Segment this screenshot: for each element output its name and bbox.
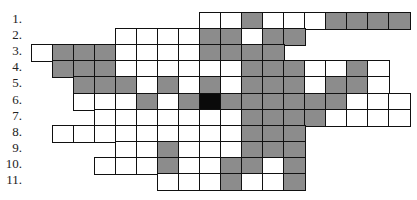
grid-cell[interactable] <box>367 76 390 94</box>
shaded-cell[interactable] <box>94 44 117 62</box>
grid-cell[interactable] <box>178 141 201 159</box>
shaded-cell[interactable] <box>283 157 306 175</box>
grid-cell[interactable] <box>220 76 243 94</box>
shaded-cell[interactable] <box>283 125 306 143</box>
shaded-cell[interactable] <box>157 157 180 175</box>
shaded-cell[interactable] <box>304 109 327 127</box>
shaded-cell[interactable] <box>220 28 243 46</box>
grid-cell[interactable] <box>367 109 390 127</box>
grid-cell[interactable] <box>304 76 327 94</box>
shaded-cell[interactable] <box>262 93 285 111</box>
grid-cell[interactable] <box>136 157 159 175</box>
grid-cell[interactable] <box>136 76 159 94</box>
grid-cell[interactable] <box>157 109 180 127</box>
shaded-cell[interactable] <box>262 28 285 46</box>
shaded-cell[interactable] <box>220 173 243 191</box>
shaded-cell[interactable] <box>220 157 243 175</box>
grid-cell[interactable] <box>178 44 201 62</box>
shaded-cell[interactable] <box>115 76 138 94</box>
grid-cell[interactable] <box>346 93 369 111</box>
grid-cell[interactable] <box>346 109 369 127</box>
grid-cell[interactable] <box>94 93 117 111</box>
shaded-cell[interactable] <box>241 141 264 159</box>
shaded-cell[interactable] <box>241 109 264 127</box>
grid-cell[interactable] <box>325 109 348 127</box>
grid-cell[interactable] <box>115 28 138 46</box>
shaded-cell[interactable] <box>304 93 327 111</box>
shaded-cell[interactable] <box>52 60 75 78</box>
grid-cell[interactable] <box>304 12 327 30</box>
grid-cell[interactable] <box>73 125 96 143</box>
shaded-cell[interactable] <box>283 173 306 191</box>
grid-cell[interactable] <box>178 76 201 94</box>
grid-cell[interactable] <box>178 60 201 78</box>
grid-cell[interactable] <box>304 60 327 78</box>
shaded-cell[interactable] <box>241 60 264 78</box>
shaded-cell[interactable] <box>283 109 306 127</box>
shaded-cell[interactable] <box>283 93 306 111</box>
grid-cell[interactable] <box>157 28 180 46</box>
shaded-cell[interactable] <box>199 76 222 94</box>
grid-cell[interactable] <box>31 44 54 62</box>
grid-cell[interactable] <box>367 60 390 78</box>
grid-cell[interactable] <box>262 157 285 175</box>
shaded-cell[interactable] <box>325 76 348 94</box>
grid-cell[interactable] <box>136 125 159 143</box>
grid-cell[interactable] <box>157 44 180 62</box>
grid-cell[interactable] <box>220 141 243 159</box>
shaded-cell[interactable] <box>199 28 222 46</box>
shaded-cell[interactable] <box>157 76 180 94</box>
shaded-cell[interactable] <box>241 76 264 94</box>
grid-cell[interactable] <box>115 141 138 159</box>
shaded-cell[interactable] <box>241 93 264 111</box>
grid-cell[interactable] <box>199 12 222 30</box>
grid-cell[interactable] <box>157 93 180 111</box>
grid-cell[interactable] <box>73 93 96 111</box>
grid-cell[interactable] <box>115 125 138 143</box>
grid-cell[interactable] <box>157 60 180 78</box>
shaded-cell[interactable] <box>283 141 306 159</box>
shaded-cell[interactable] <box>94 60 117 78</box>
shaded-cell[interactable] <box>283 76 306 94</box>
shaded-cell[interactable] <box>157 141 180 159</box>
grid-cell[interactable] <box>262 12 285 30</box>
grid-cell[interactable] <box>94 125 117 143</box>
shaded-cell[interactable] <box>346 12 369 30</box>
shaded-cell[interactable] <box>73 76 96 94</box>
shaded-cell[interactable] <box>262 76 285 94</box>
grid-cell[interactable] <box>199 125 222 143</box>
grid-cell[interactable] <box>388 93 411 111</box>
grid-cell[interactable] <box>220 12 243 30</box>
shaded-cell[interactable] <box>367 12 390 30</box>
shaded-cell[interactable] <box>262 44 285 62</box>
grid-cell[interactable] <box>199 157 222 175</box>
shaded-cell[interactable] <box>52 44 75 62</box>
grid-cell[interactable] <box>283 12 306 30</box>
grid-cell[interactable] <box>157 125 180 143</box>
grid-cell[interactable] <box>115 44 138 62</box>
shaded-cell[interactable] <box>220 44 243 62</box>
shaded-cell[interactable] <box>220 93 243 111</box>
shaded-cell[interactable] <box>94 76 117 94</box>
grid-cell[interactable] <box>262 173 285 191</box>
grid-cell[interactable] <box>178 157 201 175</box>
shaded-cell[interactable] <box>283 60 306 78</box>
grid-cell[interactable] <box>199 109 222 127</box>
shaded-cell[interactable] <box>283 28 306 46</box>
grid-cell[interactable] <box>199 60 222 78</box>
grid-cell[interactable] <box>178 125 201 143</box>
grid-cell[interactable] <box>115 93 138 111</box>
grid-cell[interactable] <box>199 141 222 159</box>
shaded-cell[interactable] <box>136 93 159 111</box>
grid-cell[interactable] <box>115 157 138 175</box>
shaded-cell[interactable] <box>346 76 369 94</box>
grid-cell[interactable] <box>178 173 201 191</box>
grid-cell[interactable] <box>325 60 348 78</box>
grid-cell[interactable] <box>136 44 159 62</box>
shaded-cell[interactable] <box>325 93 348 111</box>
shaded-cell[interactable] <box>346 60 369 78</box>
grid-cell[interactable] <box>136 60 159 78</box>
grid-cell[interactable] <box>388 109 411 127</box>
grid-cell[interactable] <box>220 125 243 143</box>
shaded-cell[interactable] <box>73 44 96 62</box>
